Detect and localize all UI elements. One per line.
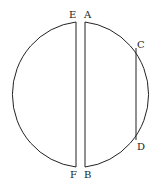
label-e: E xyxy=(69,9,76,20)
label-b: B xyxy=(84,169,91,180)
label-f: F xyxy=(70,169,77,180)
label-a: A xyxy=(83,9,92,20)
label-d: D xyxy=(137,141,145,152)
diagram-canvas: E A C D F B xyxy=(0,0,158,182)
label-c: C xyxy=(137,39,145,50)
left-segment xyxy=(12,22,76,167)
